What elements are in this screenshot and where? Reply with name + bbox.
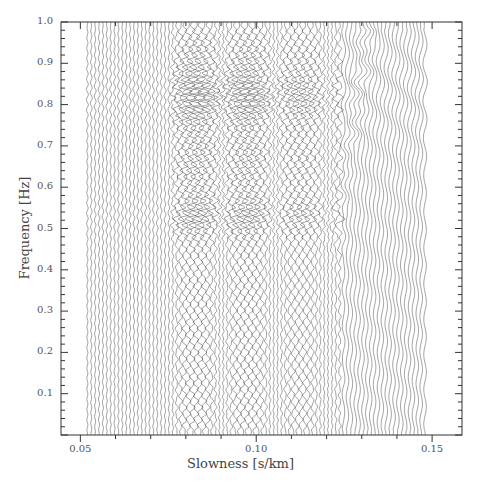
wiggle-trace [98,22,100,435]
wiggle-trace [368,22,374,435]
wiggle-trace [411,22,415,435]
wiggle-trace [388,22,392,435]
wiggle-trace [261,22,270,435]
y-axis-label: Frequency [Hz] [17,177,32,280]
y-tick-label: 1.0 [23,15,53,26]
wiggle-trace [125,22,127,435]
wiggle-trace [423,22,427,435]
wiggle-trace [90,22,92,435]
wiggle-trace [403,22,407,435]
wiggle-trace [110,22,112,435]
wiggle-trace [317,22,323,435]
wiggle-trace [170,22,176,435]
wiggle-trace [407,22,411,435]
wiggle-trace [168,22,170,435]
wiggle-trace [164,22,166,435]
wiggle-trace [102,22,104,435]
wiggle-trace [141,22,143,435]
wiggle-trace [415,22,419,435]
wiggle-trace [137,22,139,435]
wiggle-trace [326,22,330,435]
wiggle-trace [121,22,123,435]
x-tick-label: 0.10 [236,443,276,454]
y-tick-label: 0.8 [23,98,53,109]
wiggle-trace [211,22,220,435]
wiggle-trace [145,22,147,435]
wiggle-traces [86,22,427,435]
wiggle-trace [354,22,362,435]
wiggle-trace [160,22,162,435]
wiggle-trace [94,22,96,435]
wiggle-trace [106,22,108,435]
seismic-wiggle-plot: 0.10.20.30.40.50.60.70.80.91.0 0.050.100… [0,0,481,489]
wiggle-trace [129,22,131,435]
wiggle-trace [359,22,367,435]
wiggle-trace [197,22,213,435]
wiggle-trace [396,22,400,435]
wiggle-trace [185,22,202,435]
wiggle-trace [380,22,384,435]
wiggle-trace [372,22,377,435]
wiggle-trace [148,22,150,435]
wiggle-trace [392,22,396,435]
y-tick-label: 0.1 [23,387,53,398]
wiggle-trace [192,22,209,435]
wiggle-trace [152,22,154,435]
x-tick-label: 0.05 [60,443,100,454]
wiggle-trace [117,22,119,435]
wiggle-trace [251,22,264,435]
y-tick-label: 0.3 [23,304,53,315]
wiggle-trace [335,22,345,435]
wiggle-trace [156,22,158,435]
wiggle-trace [376,22,380,435]
x-axis-label: Slowness [s/km] [0,456,481,471]
wiggle-trace [419,22,423,435]
y-tick-label: 0.7 [23,139,53,150]
x-tick-label: 0.15 [412,443,452,454]
wiggle-trace [322,22,327,435]
y-tick-label: 0.2 [23,345,53,356]
wiggle-trace [114,22,116,435]
wiggle-trace [133,22,135,435]
plot-area [0,0,481,489]
y-tick-label: 0.9 [23,56,53,67]
wiggle-trace [275,22,280,435]
wiggle-trace [267,22,274,435]
wiggle-trace [86,22,88,435]
